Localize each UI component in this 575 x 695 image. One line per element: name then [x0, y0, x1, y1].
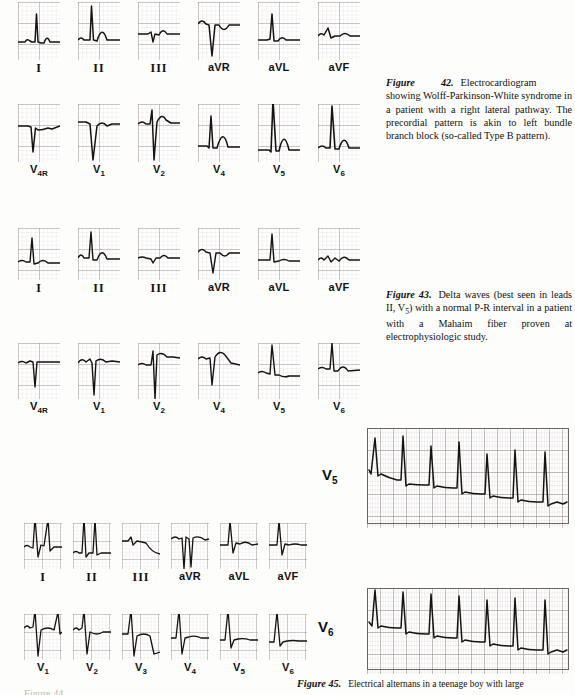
ecg-lead-panel: aVL [220, 523, 258, 583]
ecg-tracing-II [78, 2, 120, 60]
ecg-lead-panel: V2 [73, 614, 111, 676]
ecg-lead-panel: I [24, 523, 62, 583]
ecg-tracing-V6 [318, 104, 360, 162]
lead-label-I: I [40, 571, 46, 583]
rhythm-strip-label-V6: V6 [318, 618, 334, 638]
ecg-lead-panel: V1 [24, 614, 62, 676]
ecg-lead-panel: V6 [318, 343, 360, 415]
ecg-tracing-V6 [318, 343, 360, 399]
figure-43-caption: Figure 43.Delta waves (best seen in lead… [386, 288, 572, 344]
figure-43-caption-p5: electrophysiologic study. [386, 331, 488, 342]
ecg-lead-panel: V6 [269, 614, 307, 676]
v-sub: 1 [100, 406, 105, 415]
lead-label-III: III [150, 282, 167, 294]
v-base: V [318, 618, 328, 635]
lead-label-aVF: aVF [278, 571, 299, 582]
v-sub: 2 [160, 406, 165, 415]
lead-label-V4: V4 [213, 164, 225, 178]
v-base: V [322, 466, 332, 483]
ecg-lead-panel: aVF [269, 523, 307, 583]
lead-label-aVR: aVR [208, 282, 230, 293]
lead-label-V6: V6 [333, 164, 345, 178]
lead-label-V1: V1 [37, 662, 49, 676]
lead-label-III: III [132, 571, 149, 583]
v-sub: 6 [340, 169, 345, 178]
ecg-tracing-II [73, 523, 111, 569]
lead-label-II: II [93, 282, 104, 294]
figure-43-caption-p1: Delta waves (best seen in [438, 289, 547, 300]
lead-label-V3: V3 [135, 662, 147, 676]
ecg-lead-panel: III [138, 228, 180, 294]
lead-label-V4R: V4R [30, 164, 48, 178]
lead-label-V6: V6 [333, 401, 345, 415]
figure-45-label: Figure [297, 678, 326, 689]
ecg-lead-panel: V3 [122, 614, 160, 676]
ecg-lead-panel: II [78, 228, 120, 294]
lead-label-V4: V4 [213, 401, 225, 415]
ecg-lead-panel: aVR [198, 228, 240, 294]
ecg-lead-panel: aVL [258, 228, 300, 294]
document-page: I II III [0, 0, 575, 695]
ecg-tracing-V1 [24, 614, 62, 660]
figure-42-limb-lead-row: I II III [18, 2, 370, 74]
v-sub: 5 [280, 169, 285, 178]
lead-label-I: I [36, 62, 42, 74]
ecg-lead-panel: V4 [198, 343, 240, 415]
figure-42-precordial-lead-row: V4R V1 [18, 104, 370, 178]
ecg-tracing-aVR [198, 228, 240, 280]
ecg-lead-panel: V2 [138, 343, 180, 415]
ecg-tracing-V3 [122, 614, 160, 660]
figure-45-caption-text: Electrical alternans in a teenage boy wi… [348, 679, 524, 689]
v-sub: 6 [340, 406, 345, 415]
ecg-tracing-V5 [258, 104, 300, 162]
v-sub: 6 [289, 667, 294, 676]
ecg-lead-panel: I [18, 2, 60, 74]
figure-42-number: 42. [441, 77, 454, 88]
lead-label-V1: V1 [93, 401, 105, 415]
ecg-tracing-aVL [220, 523, 258, 569]
v-sub: 1 [44, 667, 49, 676]
figure-45-rhythm-strip-V5 [367, 428, 569, 532]
figure-45-number: 45. [328, 678, 341, 689]
figure-43-limb-lead-row: I II III [18, 228, 370, 294]
ecg-lead-panel: V2 [138, 104, 180, 178]
figure-44-limb-lead-row: I II III [24, 523, 314, 583]
ecg-tracing-V2 [138, 104, 180, 162]
lead-label-I: I [36, 282, 42, 294]
lead-label-aVR: aVR [179, 571, 201, 582]
v-sub: 5 [240, 667, 245, 676]
figure-43-caption-p3: ) with a normal P-R interval in [409, 302, 535, 313]
figure-45-rhythm-strip-V6 [367, 588, 569, 678]
rhythm-strip-label-V5: V5 [322, 466, 338, 486]
v-sub: 6 [328, 627, 334, 638]
lead-label-V5: V5 [233, 662, 245, 676]
v-sub: 5 [280, 406, 285, 415]
ecg-lead-panel: III [138, 2, 180, 74]
lead-label-V5: V5 [273, 164, 285, 178]
ecg-tracing-I [24, 523, 62, 569]
ecg-tracing-V2 [138, 343, 180, 399]
ecg-tracing-V6 [269, 614, 307, 660]
lead-label-III: III [150, 62, 167, 74]
ecg-tracing-V4R [18, 343, 60, 399]
ecg-lead-panel: aVF [318, 228, 360, 294]
ecg-lead-panel: V1 [78, 104, 120, 178]
figure-43-label: Figure [386, 289, 415, 300]
lead-label-II: II [86, 571, 97, 583]
v-sub: 4R [37, 406, 48, 415]
ecg-tracing-aVL [258, 2, 300, 60]
lead-label-V2: V2 [153, 401, 165, 415]
ecg-lead-panel: V5 [258, 343, 300, 415]
ecg-lead-panel: aVL [258, 2, 300, 74]
ecg-lead-panel: V4 [171, 614, 209, 676]
ecg-lead-panel: V6 [318, 104, 360, 178]
ecg-lead-panel: aVR [198, 2, 240, 74]
ecg-lead-panel: V4R [18, 343, 60, 415]
ecg-tracing-V2 [73, 614, 111, 660]
ecg-lead-panel: II [78, 2, 120, 74]
figure-44-caption-truncated: Figure 44. .... ... [24, 688, 254, 695]
ecg-tracing-aVR [198, 2, 240, 60]
ecg-tracing-aVF [318, 228, 360, 280]
v-sub: 5 [332, 475, 338, 486]
ecg-tracing-I [18, 228, 60, 280]
